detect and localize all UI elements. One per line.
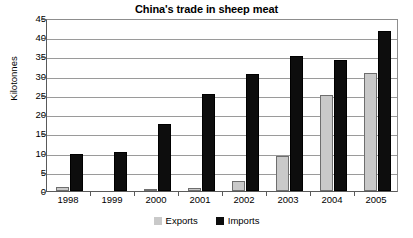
bar-imports-2004 xyxy=(334,60,347,191)
x-tick-label-2000: 2000 xyxy=(134,194,178,205)
plot-area xyxy=(46,19,398,192)
bar-exports-2002 xyxy=(232,181,245,191)
bar-group-1998 xyxy=(47,20,91,191)
y-tick-label: 40 xyxy=(6,33,46,43)
legend-swatch-exports-icon xyxy=(154,217,162,225)
y-tick-label: 15 xyxy=(6,129,46,139)
bar-exports-2001 xyxy=(188,188,201,191)
chart-container: China's trade in sheep meat Kilotonnes 0… xyxy=(0,0,413,238)
y-tick-label: 10 xyxy=(6,149,46,159)
bar-exports-2000 xyxy=(144,189,157,191)
legend-item-exports[interactable]: Exports xyxy=(154,216,198,226)
bar-exports-2004 xyxy=(320,95,333,191)
y-axis-ticks: 051015202530354045 xyxy=(0,0,46,238)
y-tick-label: 20 xyxy=(6,110,46,120)
legend-label-exports: Exports xyxy=(166,216,198,226)
y-tick-label: 45 xyxy=(6,14,46,24)
x-tick-label-1999: 1999 xyxy=(90,194,134,205)
legend-swatch-imports-icon xyxy=(216,217,224,225)
bar-imports-2005 xyxy=(378,31,391,191)
bar-exports-1998 xyxy=(56,187,69,191)
x-tick-label-2004: 2004 xyxy=(310,194,354,205)
y-tick-label: 0 xyxy=(6,187,46,197)
bar-group-2005 xyxy=(355,20,399,191)
legend-label-imports: Imports xyxy=(228,216,260,226)
bar-group-2003 xyxy=(267,20,311,191)
bar-imports-1998 xyxy=(70,154,83,191)
bar-imports-2003 xyxy=(290,56,303,191)
legend-item-imports[interactable]: Imports xyxy=(216,216,260,226)
bar-imports-2001 xyxy=(202,94,215,191)
x-tick-label-1998: 1998 xyxy=(46,194,90,205)
bar-group-1999 xyxy=(91,20,135,191)
x-axis-labels: 19981999200020012002200320042005 xyxy=(46,194,398,210)
x-tick-label-2003: 2003 xyxy=(266,194,310,205)
x-tick-label-2002: 2002 xyxy=(222,194,266,205)
bar-group-2002 xyxy=(223,20,267,191)
x-tick-label-2001: 2001 xyxy=(178,194,222,205)
bar-exports-2003 xyxy=(276,156,289,191)
y-tick-label: 25 xyxy=(6,91,46,101)
bar-group-2001 xyxy=(179,20,223,191)
bar-group-2004 xyxy=(311,20,355,191)
x-tick-label-2005: 2005 xyxy=(354,194,398,205)
chart-legend: ExportsImports xyxy=(0,216,413,226)
bar-exports-2005 xyxy=(364,73,377,191)
bar-imports-2000 xyxy=(158,124,171,191)
y-tick-label: 30 xyxy=(6,72,46,82)
y-tick-label: 5 xyxy=(6,168,46,178)
bar-imports-2002 xyxy=(246,74,259,191)
bar-imports-1999 xyxy=(114,152,127,191)
chart-title: China's trade in sheep meat xyxy=(0,3,413,15)
bars-layer xyxy=(47,20,397,191)
y-tick-label: 35 xyxy=(6,52,46,62)
bar-group-2000 xyxy=(135,20,179,191)
